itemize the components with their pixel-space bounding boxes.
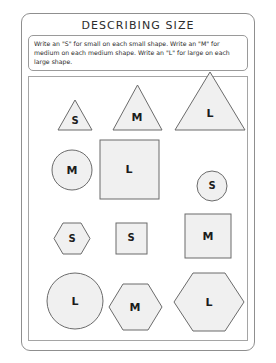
shape-triangle-large[interactable]: L — [174, 71, 246, 131]
shape-hexagon-small[interactable]: S — [53, 222, 91, 255]
worksheet-page: DESCRIBING SIZE Write an "S" for small o… — [0, 0, 276, 363]
shape-triangle-small[interactable]: S — [57, 99, 93, 131]
shape-square-medium[interactable]: M — [184, 213, 232, 259]
shape-hexagon-large[interactable]: L — [173, 272, 245, 332]
instructions-text: Write an "S" for small on each small sha… — [34, 39, 244, 67]
shape-square-small[interactable]: S — [115, 222, 148, 255]
shape-square-large[interactable]: L — [99, 139, 160, 200]
instructions-box: Write an "S" for small on each small sha… — [28, 35, 248, 71]
shape-hexagon-medium[interactable]: M — [108, 283, 163, 331]
shape-circle-small[interactable]: S — [196, 170, 228, 202]
shape-circle-medium[interactable]: M — [51, 149, 93, 191]
page-title: DESCRIBING SIZE — [21, 19, 255, 32]
shape-triangle-medium[interactable]: M — [112, 84, 163, 131]
shape-circle-large[interactable]: L — [46, 272, 104, 330]
